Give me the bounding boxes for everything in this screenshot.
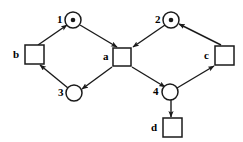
arc — [133, 25, 165, 47]
arc — [132, 67, 165, 87]
place-label: 4 — [153, 86, 159, 97]
petri-net-canvas — [0, 0, 243, 142]
arc — [179, 24, 221, 45]
transition-square[interactable] — [163, 118, 182, 137]
place-node[interactable] — [162, 84, 178, 100]
place-label: 2 — [155, 14, 161, 25]
place-circle — [162, 84, 178, 100]
transition-square[interactable] — [113, 48, 131, 66]
transition-label: d — [151, 122, 157, 133]
transition-square[interactable] — [25, 45, 44, 64]
transition-label: b — [13, 49, 19, 60]
place-node[interactable] — [163, 12, 179, 28]
arc — [82, 67, 112, 89]
nodes-layer — [25, 12, 234, 137]
token-dot — [169, 18, 174, 23]
petri-net-diagram: 1234bacd — [0, 0, 243, 142]
arc — [38, 25, 67, 45]
arc — [40, 65, 68, 88]
arc — [80, 25, 117, 47]
place-circle — [66, 85, 82, 101]
arcs-layer — [38, 24, 221, 117]
place-node[interactable] — [66, 85, 82, 101]
transition-square[interactable] — [215, 46, 234, 65]
place-label: 3 — [58, 87, 64, 98]
token-dot — [71, 18, 76, 23]
arc — [177, 66, 214, 88]
place-label: 1 — [57, 14, 63, 25]
transition-label: a — [103, 51, 109, 62]
place-node[interactable] — [65, 12, 81, 28]
transition-label: c — [204, 50, 209, 61]
